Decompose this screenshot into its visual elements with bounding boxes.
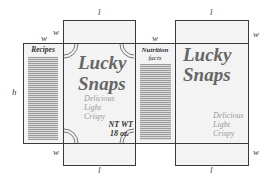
- nutrition-text-block: [140, 64, 171, 140]
- fold-line: [63, 20, 136, 21]
- recipes-text-block: [28, 57, 58, 140]
- back-bottom-flap: [175, 143, 248, 165]
- back-brand-line1: Lucky: [183, 45, 232, 65]
- fold-line: [63, 20, 64, 166]
- fold-line: [135, 20, 136, 166]
- nutrition-label-line1: Nutrition: [136, 46, 174, 54]
- corner-arc-icon: [64, 127, 80, 143]
- net-weight-line1: NT WT: [97, 121, 133, 129]
- nutrition-label-line2: facts: [136, 54, 174, 62]
- back-top-flap: [175, 20, 248, 43]
- dim-w-back-bottom: w: [253, 148, 259, 157]
- fold-line: [175, 20, 249, 21]
- dim-l-front-top: l: [98, 8, 101, 17]
- fold-line: [23, 43, 24, 144]
- dim-w-left-top: w: [41, 34, 47, 43]
- dim-w-back-right: w: [253, 30, 259, 39]
- fold-line: [248, 20, 249, 166]
- dim-l-front-bottom: l: [98, 166, 101, 175]
- back-brand-line2: Snaps: [183, 65, 231, 85]
- dim-w-middle-top: w: [152, 34, 158, 43]
- dim-l-back-bottom: l: [210, 166, 213, 175]
- dim-l-back-top: l: [210, 8, 213, 17]
- fold-line: [175, 20, 176, 166]
- front-brand-line2: Snaps: [78, 74, 126, 94]
- dim-w-front-top: w: [53, 28, 59, 37]
- net-weight-line2: 18 oz.: [97, 130, 129, 138]
- front-bottom-flap: [63, 143, 135, 165]
- dim-w-front-bottom: w: [53, 148, 59, 157]
- front-top-flap: [63, 20, 135, 43]
- recipes-label: Recipes: [24, 46, 62, 54]
- fold-line: [23, 143, 249, 144]
- dim-h-left: h: [12, 88, 17, 97]
- front-brand-line1: Lucky: [78, 53, 127, 73]
- back-tagline-3: Crispy: [213, 129, 234, 139]
